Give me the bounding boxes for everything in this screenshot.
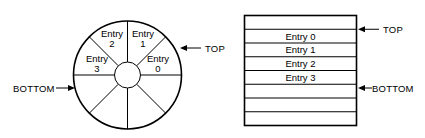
table-bottom-arrowhead-icon: [358, 85, 365, 91]
table-bottom-label: BOTTOM: [372, 83, 414, 94]
ring-sector-entry-0: Entry 0: [147, 53, 169, 74]
ring-entry-3-label-index: 3: [94, 63, 99, 74]
ring-sector-entry-2: Entry 2: [101, 28, 123, 49]
table-row: Entry 1: [285, 44, 315, 55]
table-top-pointer: TOP: [358, 24, 403, 35]
ring-top-pointer: TOP: [180, 43, 225, 54]
table-bottom-pointer: BOTTOM: [358, 83, 414, 94]
table-row: Entry 3: [285, 72, 315, 83]
ring-entry-2-label-index: 2: [109, 38, 114, 49]
linear-buffer-group: Entry 0 Entry 1 Entry 2 Entry 3 TOP BOTT…: [245, 16, 414, 126]
ring-top-arrowhead-icon: [180, 45, 187, 51]
ring-entry-0-label-index: 0: [155, 63, 160, 74]
buffer-diagram: Entry 0 Entry 1 Entry 2 Entry 3: [0, 0, 425, 138]
ring-entry-1-label-index: 1: [140, 38, 145, 49]
table-row: Entry 2: [285, 58, 315, 69]
ring-bottom-pointer: BOTTOM: [13, 83, 75, 94]
ring-sector-entry-1: Entry 1: [132, 28, 154, 49]
ring-bottom-label: BOTTOM: [13, 83, 55, 94]
ring-sector-entry-3: Entry 3: [86, 53, 108, 74]
circular-buffer-group: Entry 0 Entry 1 Entry 2 Entry 3: [13, 21, 225, 129]
table-top-label: TOP: [383, 24, 403, 35]
ring-top-label: TOP: [205, 43, 225, 54]
table-top-arrowhead-icon: [358, 26, 365, 32]
diagram-canvas: Entry 0 Entry 1 Entry 2 Entry 3: [0, 0, 425, 138]
table-row: Entry 0: [285, 31, 315, 42]
